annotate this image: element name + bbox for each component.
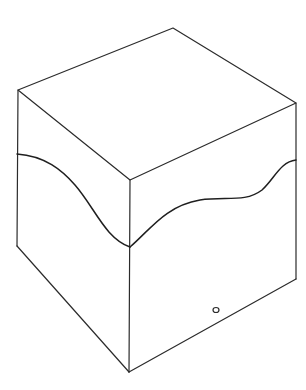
right-bottom-edge	[129, 279, 296, 372]
left-bottom-edge	[17, 246, 129, 372]
cube-diagram	[0, 0, 306, 390]
left-vertical-edge	[17, 90, 18, 246]
cube-right-face	[129, 103, 296, 372]
wave-line-right-face	[130, 160, 296, 247]
hole-icon	[213, 308, 219, 313]
front-vertical-edge	[129, 180, 130, 372]
cube-top-face	[18, 28, 296, 180]
top-face-outline	[18, 28, 296, 180]
cube-left-face	[17, 90, 129, 372]
wave-line-left-face	[17, 154, 130, 247]
